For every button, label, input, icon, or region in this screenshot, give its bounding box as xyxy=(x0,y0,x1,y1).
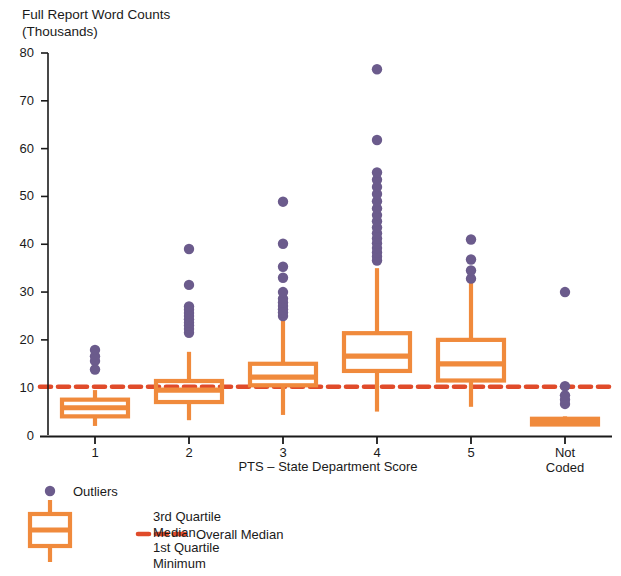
boxplot-3 xyxy=(250,196,316,414)
boxplot-2 xyxy=(156,244,222,420)
outlier-point xyxy=(278,273,288,283)
outlier-point xyxy=(184,280,194,290)
outlier-point xyxy=(560,390,570,400)
y-tick-label: 20 xyxy=(4,332,34,347)
outlier-point xyxy=(372,167,382,177)
chart-root: Full Report Word Counts (Thousands) 0102… xyxy=(0,0,621,576)
y-tick-label: 70 xyxy=(4,93,34,108)
y-tick-label: 0 xyxy=(4,428,34,443)
outlier-point xyxy=(466,234,476,244)
x-tick-label-2: 2 xyxy=(185,445,192,460)
boxplot-5 xyxy=(438,234,504,407)
outlier-point xyxy=(278,262,288,272)
iqr-box xyxy=(344,333,410,371)
outlier-point xyxy=(560,287,570,297)
boxplot-4 xyxy=(344,64,410,412)
y-tick-label: 10 xyxy=(4,380,34,395)
y-tick-label: 40 xyxy=(4,236,34,251)
legend-overall-median-label: Overall Median xyxy=(196,527,283,543)
outlier-point xyxy=(466,254,476,264)
box-series xyxy=(62,64,598,426)
x-tick-label-5: 5 xyxy=(467,445,474,460)
outlier-point xyxy=(278,239,288,249)
x-tick-label-1: 1 xyxy=(91,445,98,460)
y-tick-label: 50 xyxy=(4,188,34,203)
y-tick-label: 60 xyxy=(4,141,34,156)
y-tick-label: 80 xyxy=(4,45,34,60)
legend-outlier-dot xyxy=(45,486,55,496)
outlier-point xyxy=(184,301,194,311)
outlier-point xyxy=(278,196,288,206)
outlier-point xyxy=(372,64,382,74)
outlier-point xyxy=(560,381,570,391)
legend-outliers-label: Outliers xyxy=(73,484,118,500)
x-tick-label-4: 4 xyxy=(373,445,380,460)
outlier-point xyxy=(466,265,476,275)
boxplot-not-coded xyxy=(532,287,598,426)
outlier-point xyxy=(90,345,100,355)
axis-lines xyxy=(40,53,612,437)
x-axis-title: PTS – State Department Score xyxy=(48,459,608,474)
x-tick-label-3: 3 xyxy=(279,445,286,460)
outlier-point xyxy=(372,135,382,145)
outlier-point xyxy=(184,244,194,254)
y-tick-label: 30 xyxy=(4,284,34,299)
iqr-box xyxy=(250,364,316,386)
iqr-box xyxy=(438,340,504,381)
outlier-point xyxy=(278,287,288,297)
